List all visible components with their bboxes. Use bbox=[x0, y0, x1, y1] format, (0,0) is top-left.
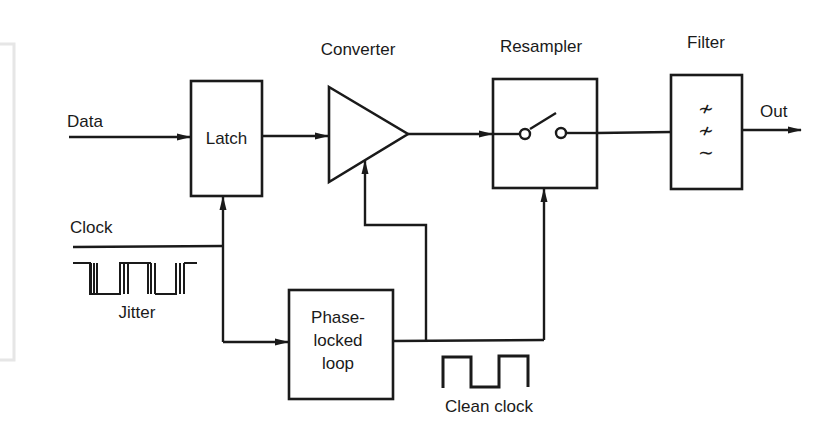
filter-label: Filter bbox=[687, 33, 725, 52]
pll-label-line-1: Phase- bbox=[311, 308, 365, 327]
clock-line bbox=[73, 246, 223, 247]
page-edge bbox=[0, 44, 14, 360]
latch-block: Latch bbox=[191, 81, 262, 196]
pll-label-line-2: locked bbox=[313, 331, 362, 350]
filter-symbol-2: ≁ bbox=[698, 120, 714, 141]
pll-label-line-3: loop bbox=[322, 354, 354, 373]
jitter-removal-block-diagram: Data Latch Converter Resampler Filter ≁ … bbox=[0, 0, 837, 440]
clean-clock-label: Clean clock bbox=[445, 397, 533, 416]
clean-clock-waveform-icon bbox=[443, 356, 528, 388]
resampler-to-filter-line bbox=[597, 132, 671, 133]
resampler-label: Resampler bbox=[500, 37, 583, 56]
jitter-waveform-icon bbox=[73, 263, 197, 294]
converter-label: Converter bbox=[321, 40, 396, 59]
out-label: Out bbox=[760, 102, 788, 121]
clock-label: Clock bbox=[70, 218, 113, 237]
filter-symbol-3: ∼ bbox=[698, 142, 714, 163]
resampler-block bbox=[493, 79, 597, 188]
filter-block: ≁ ≁ ∼ bbox=[671, 75, 742, 189]
pll-output-line bbox=[393, 340, 544, 341]
data-label: Data bbox=[67, 112, 103, 131]
converter-amplifier-triangle bbox=[329, 87, 408, 182]
filter-symbol-1: ≁ bbox=[698, 98, 714, 119]
latch-label: Latch bbox=[206, 129, 248, 148]
jitter-label: Jitter bbox=[119, 303, 156, 322]
pll-block: Phase- locked loop bbox=[289, 290, 393, 399]
